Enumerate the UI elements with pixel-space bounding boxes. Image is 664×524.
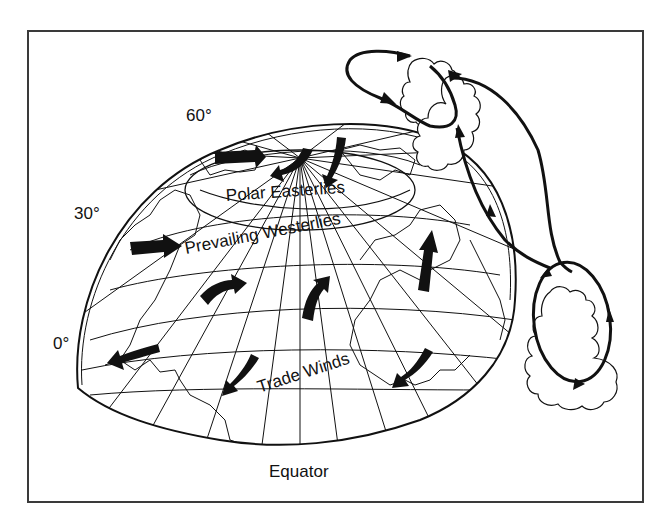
label-equator: Equator	[269, 462, 329, 482]
arrowhead	[380, 92, 396, 104]
latitude-label-0: 0°	[53, 334, 69, 354]
wind-diagram-svg	[0, 0, 664, 524]
latitude-label-30: 30°	[74, 204, 100, 224]
latitude-label-60: 60°	[186, 106, 212, 126]
diagram-canvas: 60° 30° 0° Polar Easterlies Prevailing W…	[0, 0, 664, 524]
arrowhead	[397, 51, 412, 62]
